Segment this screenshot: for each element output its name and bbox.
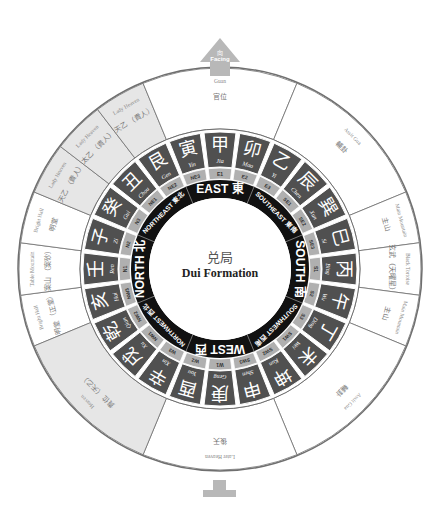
outer-sector-chinese: 案山 （案砂） <box>43 247 52 291</box>
mountain-pinyin: Geng <box>214 374 227 380</box>
dui-formation-compass: 明堂 （正堂）Bright Hall案山 （案砂）Table Mountain明… <box>0 0 439 523</box>
direction-label: SOUTH 南 <box>293 240 308 297</box>
outer-sector-english: Table Mountain <box>29 251 35 286</box>
base-stem <box>213 480 226 492</box>
mountain-pinyin: Jia <box>216 158 223 164</box>
direction-label: NORTH 北 <box>132 240 147 298</box>
mountain-chinese: 丙 <box>334 260 354 278</box>
mountain-pinyin: Bing <box>325 263 331 274</box>
facing-label: Facing <box>196 56 244 62</box>
mountain-code: N1 <box>122 266 128 273</box>
center-english: Dui Formation <box>150 266 290 281</box>
outer-sector-chinese: 玄武 （天曜星） <box>388 244 397 295</box>
mountain-code: S1 <box>313 266 319 272</box>
mountain-chinese: 庚 <box>211 383 229 403</box>
center-label: 兑局 Dui Formation <box>150 250 290 281</box>
center-chinese: 兑局 <box>150 250 290 266</box>
outer-sector-english: Black Tortoise <box>405 253 411 286</box>
direction-label: EAST 東 <box>196 181 243 196</box>
mountain-code: E1 <box>217 171 223 177</box>
direction-label: WEST 西 <box>195 342 245 356</box>
mountain-chinese: 壬 <box>86 260 106 278</box>
outer-sector-english: Later Heaven <box>205 454 235 460</box>
outer-sector-english: Guan <box>214 78 226 84</box>
facing-arrow: 向 Facing <box>196 36 244 76</box>
mountain-chinese: 甲 <box>211 135 229 155</box>
mountain-pinyin: Ren <box>109 264 115 274</box>
outer-sector-chinese: 後天 <box>213 437 227 446</box>
outer-sector-chinese: 官位 <box>213 92 227 101</box>
mountain-code: W1 <box>216 362 224 368</box>
